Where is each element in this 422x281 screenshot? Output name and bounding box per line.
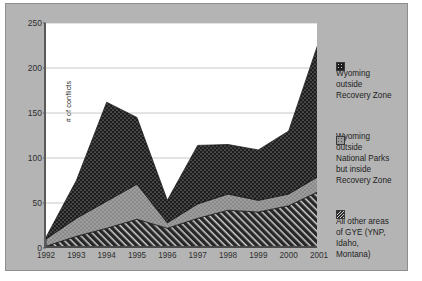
stacked-area-series [46, 23, 317, 246]
chart-screenshot: # of conflicts 050100150200250 199219931… [0, 0, 422, 281]
x-axis-tick-label: 1998 [219, 251, 237, 260]
plot-area: # of conflicts 050100150200250 199219931… [44, 23, 317, 248]
legend-item: WyomingoutsideRecovery Zone [336, 50, 422, 102]
y-axis-tick-mark [43, 248, 46, 249]
legend-label-line: but inside [336, 164, 422, 175]
legend-label: WyomingoutsideRecovery Zone [336, 68, 422, 102]
plot-inner [46, 23, 317, 246]
legend-label-line: All other areas [336, 216, 422, 227]
x-axis-tick-label: 1992 [37, 251, 55, 260]
x-axis-tick-label: 1997 [189, 251, 207, 260]
legend-label-line: Recovery Zone [336, 175, 422, 186]
legend-label-line: outside [336, 79, 422, 90]
y-axis-tick-label: 150 [28, 108, 42, 118]
legend-item: WyomingoutsideNational Parksbut insideRe… [336, 113, 422, 187]
y-axis-tick-label: 200 [28, 63, 42, 73]
legend-label-line: Wyoming [336, 131, 422, 142]
legend-label-line: of GYE (YNP, [336, 227, 422, 238]
legend-item: All other areasof GYE (YNP,Idaho,Montana… [336, 198, 422, 261]
legend-label: WyomingoutsideNational Parksbut insideRe… [336, 131, 422, 187]
legend-swatch-hatch-dark [336, 210, 345, 219]
y-axis-tick-label: 250 [28, 18, 42, 28]
y-axis-tick-label: 50 [33, 198, 42, 208]
x-axis-tick-label: 2000 [280, 251, 298, 260]
x-axis-tick-label: 1993 [67, 251, 85, 260]
x-axis-tick-label: 1995 [128, 251, 146, 260]
legend-label-line: outside [336, 142, 422, 153]
legend-label-line: National Parks [336, 153, 422, 164]
chart-frame: # of conflicts 050100150200250 199219931… [5, 3, 408, 271]
legend-label-line: Montana) [336, 249, 422, 260]
y-axis-tick-label: 100 [28, 153, 42, 163]
legend-label-line: Wyoming [336, 68, 422, 79]
legend-swatch-dotted-gray [336, 136, 345, 145]
x-axis-tick-label: 2001 [310, 251, 328, 260]
x-axis-tick-label: 1994 [98, 251, 116, 260]
legend-label-line: Recovery Zone [336, 90, 422, 101]
x-axis-tick-label: 1996 [158, 251, 176, 260]
chart-legend: WyomingoutsideRecovery ZoneWyomingoutsid… [336, 50, 422, 271]
legend-label-line: Idaho, [336, 238, 422, 249]
legend-swatch-dotted-dark [336, 62, 345, 71]
legend-label: All other areasof GYE (YNP,Idaho,Montana… [336, 216, 422, 261]
x-axis-tick-label: 1999 [249, 251, 267, 260]
